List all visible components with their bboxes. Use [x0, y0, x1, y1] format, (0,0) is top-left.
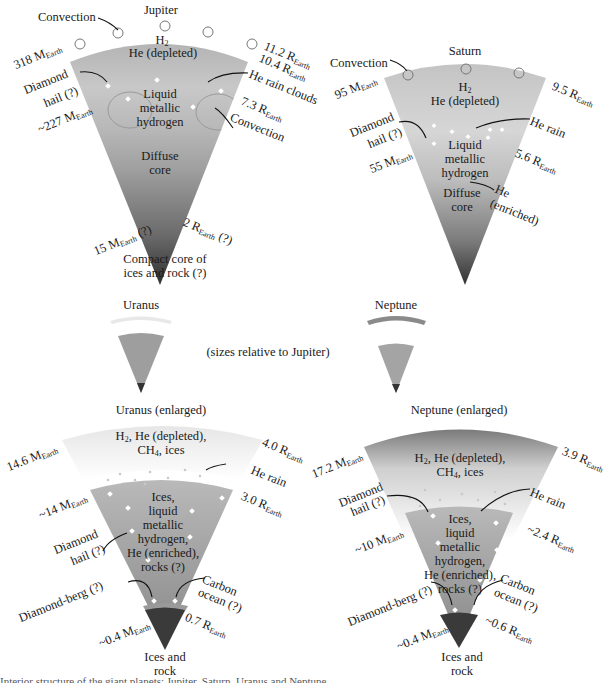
neptune-layer2-line6: rocks (?)	[438, 583, 482, 596]
uranus-layer2-line1: Ices,	[151, 491, 174, 504]
jupiter-layer2-line1: Liquid	[143, 88, 176, 101]
jupiter-core-label-line1: Compact core of	[123, 253, 206, 266]
uranus-layer2-line3: metallic	[143, 519, 183, 532]
uranus-enlarged-title: Uranus (enlarged)	[116, 404, 206, 417]
saturn-layer1-line2: He (depleted)	[431, 95, 499, 108]
neptune-small-title: Neptune	[375, 299, 417, 312]
uranus-layer2-line6: rocks (?)	[141, 561, 185, 574]
neptune-layer2-line1: Ices,	[448, 513, 471, 526]
uranus-core-label-line1: Ices and	[144, 651, 185, 664]
jupiter-layer3-line1: Diffuse	[141, 150, 178, 163]
jupiter-layer1-line2: He (depleted)	[129, 47, 197, 60]
neptune-layer2-line2: liquid	[445, 527, 474, 540]
neptune-layer2-line3: metallic	[440, 541, 480, 554]
uranus-layer2-line5: He (enriched),	[127, 547, 199, 560]
uranus-layer1-line2: CH4, ices	[137, 444, 184, 460]
saturn-title: Saturn	[449, 45, 482, 58]
uranus-small-title: Uranus	[123, 299, 159, 312]
saturn-layer2-line2: metallic	[445, 153, 485, 166]
neptune-core-label-line1: Ices and	[441, 651, 482, 664]
saturn-layer2-line3: hydrogen	[441, 167, 488, 180]
uranus-small-wedge	[110, 317, 172, 394]
giant-planet-interiors-figure: Jupiter Convection H2 He (depleted) Liqu…	[0, 0, 613, 683]
saturn-layer3-line1: Diffuse	[443, 187, 480, 200]
saturn-convection-top-label: Convection	[330, 57, 388, 70]
saturn-layer3-line2: core	[451, 201, 473, 214]
saturn-layer2-line1: Liquid	[448, 139, 481, 152]
jupiter-title: Jupiter	[144, 4, 178, 17]
jupiter-convection-top-label: Convection	[38, 11, 96, 24]
neptune-small-wedge	[367, 316, 426, 393]
neptune-enlarged-title: Neptune (enlarged)	[411, 404, 508, 417]
uranus-layer2-line2: liquid	[148, 505, 177, 518]
neptune-layer2-line4: hydrogen,	[435, 555, 485, 568]
jupiter-layer2-line3: hydrogen	[136, 116, 183, 129]
neptune-layer1-line2: CH4, ices	[436, 466, 483, 482]
jupiter-layer2-line2: metallic	[140, 102, 180, 115]
neptune-layer2-line5: He (enriched),	[424, 569, 496, 582]
jupiter-core-label-line2: ices and rock (?)	[124, 267, 207, 280]
uranus-layer2-line4: hydrogen,	[138, 533, 188, 546]
jupiter-layer3-line2: core	[149, 164, 171, 177]
scale-note: (sizes relative to Jupiter)	[206, 346, 329, 359]
caption-fragment: Interior structure of the giant planets:…	[0, 676, 613, 683]
